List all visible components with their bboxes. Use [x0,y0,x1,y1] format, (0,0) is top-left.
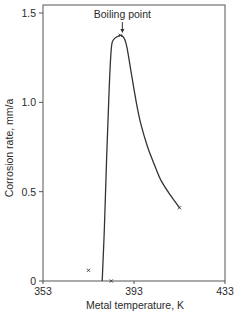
y-tick-label: 0.5 [21,186,36,198]
arrow-down-icon [120,29,124,33]
x-tick-label: 433 [216,285,234,297]
x-axis: 353393433 [34,281,234,297]
y-tick-label: 1.5 [21,7,36,19]
y-axis: 00.51.01.5 [21,7,43,287]
x-tick-label: 393 [125,285,143,297]
x-tick-label: 353 [34,285,52,297]
annotation-text: Boiling point [94,8,151,20]
data-markers [87,34,181,283]
data-line [102,35,179,281]
chart: 00.51.01.5 353393433 Boiling point Metal… [0,0,242,317]
plot-frame [43,5,225,281]
y-axis-label: Corrosion rate, mm/a [3,99,15,198]
annotation: Boiling point [94,8,151,33]
y-tick-label: 1.0 [21,96,36,108]
x-marker-icon [87,269,90,272]
x-axis-label: Metal temperature, K [86,299,184,311]
